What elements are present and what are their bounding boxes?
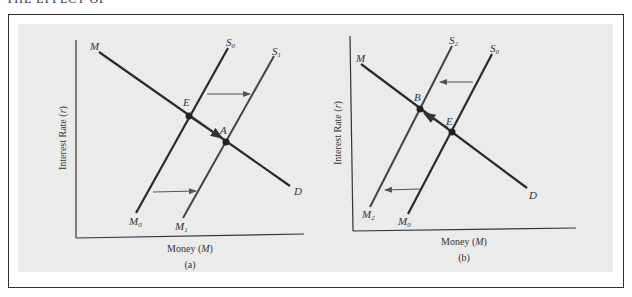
equilibrium-e-b: [449, 129, 456, 136]
x-axis-a: [76, 234, 304, 238]
label-m0-b: M0: [397, 215, 411, 229]
movement-arrow-b: [424, 113, 448, 128]
y-axis-b: [350, 36, 353, 231]
supply-s0-a: [136, 48, 228, 213]
label-d-b: D: [528, 189, 537, 201]
equilibrium-e-a: [186, 113, 193, 120]
label-d-a: D: [293, 185, 302, 197]
label-m0-a: M0: [128, 215, 142, 229]
caption-b: (b): [458, 252, 470, 264]
label-s1-a: S1: [272, 45, 281, 59]
label-s0-a: S0: [226, 36, 236, 50]
y-label-b: Interest Rate (r): [332, 101, 344, 165]
label-e-a: E: [182, 96, 190, 108]
label-m-a: M: [89, 40, 100, 52]
label-a-a: A: [219, 124, 227, 136]
x-label-a: Money (M): [167, 243, 213, 255]
panel-a: M D S0 S1 E A M0 M1 Money (M) (a) Intere…: [57, 36, 304, 271]
shift-arrow-lower-a: [153, 191, 196, 192]
label-b-b: B: [414, 91, 421, 103]
label-m1-a: M1: [174, 220, 188, 234]
x-axis-b: [353, 228, 576, 231]
label-e-b: E: [445, 115, 453, 127]
equilibrium-b-point: [417, 106, 424, 113]
equilibrium-a-point: [223, 139, 230, 146]
money-market-diagram: M D S0 S1 E A M0 M1 Money (M) (a) Intere…: [0, 0, 632, 297]
label-s0-b: S0: [490, 42, 500, 56]
supply-s1-a: [183, 56, 274, 218]
shift-arrow-lower-b: [385, 189, 420, 190]
y-label-a: Interest Rate (r): [57, 106, 69, 170]
x-label-b: Money (M): [441, 236, 487, 248]
supply-s2-b: [370, 46, 452, 207]
movement-arrow-a: [192, 118, 222, 138]
label-m2-b: M2: [361, 208, 375, 222]
panel-b: M D S2 S0 B E M2 M0 Money (M) (b) Intere…: [332, 34, 576, 264]
caption-a: (a): [184, 259, 195, 271]
label-m-b: M: [355, 52, 366, 64]
label-s2-b: S2: [449, 34, 459, 48]
